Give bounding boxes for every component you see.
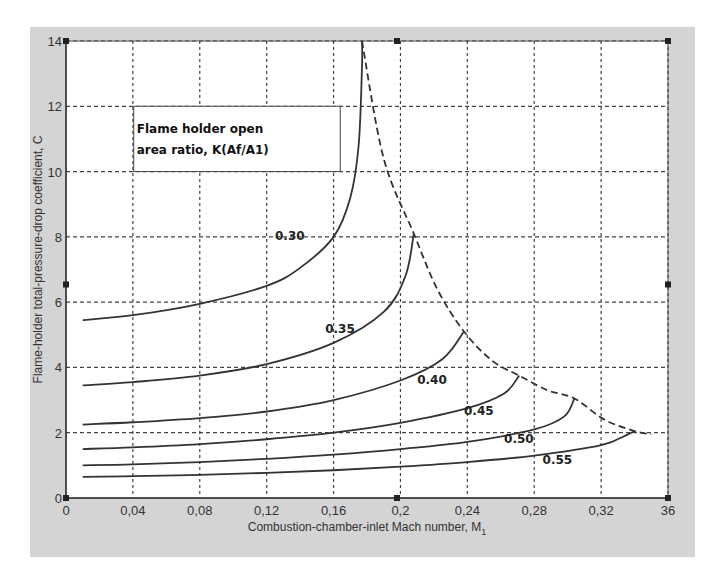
curve-label: 0.30: [275, 229, 305, 243]
y-tick-label: 14: [48, 34, 62, 49]
x-tick-label: 0: [62, 503, 69, 518]
y-tick-label: 12: [48, 99, 62, 114]
curve-label: 0.40: [417, 373, 447, 387]
curve-label: 0.35: [325, 322, 355, 336]
resize-handle: [63, 38, 69, 44]
x-tick-label: 0,2: [391, 503, 409, 518]
resize-handle: [665, 495, 671, 501]
curve-label: 0.50: [504, 432, 534, 446]
x-tick-label: 0,12: [254, 503, 279, 518]
resize-handle: [394, 495, 400, 501]
chart: 00,040,080,120,160,20,240,280,3236 02468…: [0, 0, 705, 572]
x-tick-label: 0,32: [588, 503, 613, 518]
y-tick-label: 4: [55, 360, 62, 375]
y-tick-label: 2: [55, 426, 62, 441]
curve-label: 0.55: [543, 453, 573, 467]
resize-handle: [665, 282, 671, 288]
resize-handle: [63, 282, 69, 288]
x-tick-label: 36: [661, 503, 675, 518]
x-axis-ticks: 00,040,080,120,160,20,240,280,3236: [62, 503, 675, 518]
y-tick-label: 10: [48, 165, 62, 180]
x-tick-label: 0,16: [321, 503, 346, 518]
x-tick-label: 0,08: [187, 503, 212, 518]
x-tick-label: 0,04: [120, 503, 145, 518]
resize-handle: [665, 38, 671, 44]
y-tick-label: 6: [55, 295, 62, 310]
x-tick-label: 0,28: [522, 503, 547, 518]
y-axis-label: Flame-holder total-pressure-drop coeffic…: [31, 135, 45, 383]
legend-line-2: area ratio, K(Af/A1): [137, 143, 269, 157]
y-tick-label: 0: [55, 491, 62, 506]
y-tick-label: 8: [55, 230, 62, 245]
y-axis-ticks: 02468101214: [48, 34, 62, 506]
resize-handle: [394, 38, 400, 44]
x-tick-label: 0,24: [455, 503, 480, 518]
legend-box: Flame holder open area ratio, K(Af/A1): [134, 106, 341, 171]
resize-handle: [63, 495, 69, 501]
curve-label: 0.45: [464, 404, 494, 418]
x-axis-label: Combustion-chamber-inlet Mach number, M1: [248, 520, 486, 537]
legend-line-1: Flame holder open: [137, 122, 263, 136]
